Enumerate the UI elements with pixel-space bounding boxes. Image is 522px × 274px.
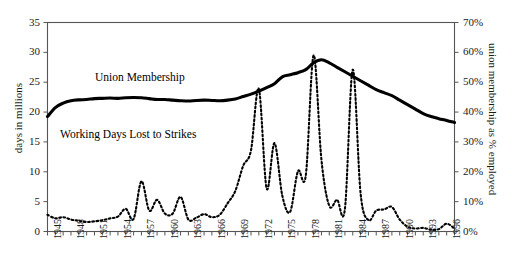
y-axis-left-tick-label: 20 [14, 105, 40, 117]
y-axis-left-tick-label: 0 [14, 225, 40, 237]
y-axis-right-tick-label: 20% [463, 165, 497, 177]
x-axis-tick-label: 1963 [192, 219, 203, 239]
x-axis-tick-label: 1978 [310, 219, 321, 239]
x-axis-tick-label: 1948 [75, 219, 86, 239]
y-axis-right-tick-label: 10% [463, 195, 497, 207]
x-axis-tick-label: 1960 [169, 219, 180, 239]
x-axis-tick-label: 1969 [239, 219, 250, 239]
x-axis-tick-label: 1951 [98, 219, 109, 239]
x-axis-tick-label: 1957 [145, 219, 156, 239]
series-line-working-days-lost [48, 55, 455, 230]
y-axis-left-ticks [44, 23, 48, 232]
y-axis-left-tick-label: 10 [14, 165, 40, 177]
x-axis-tick-label: 1945 [52, 219, 63, 239]
y-axis-right-ticks [455, 23, 459, 232]
x-axis-tick-label: 1990 [404, 219, 415, 239]
y-axis-right-tick-label: 30% [463, 135, 497, 147]
chart-container: days in millions union membership as % e… [0, 0, 522, 274]
y-axis-right-tick-label: 60% [463, 45, 497, 57]
series-line-union-membership [48, 60, 455, 123]
y-axis-left-tick-label: 25 [14, 75, 40, 87]
x-axis-tick-label: 1966 [216, 219, 227, 239]
x-axis-tick-label: 1981 [333, 219, 344, 239]
plot-frame [48, 23, 455, 232]
x-axis-tick-label: 1993 [427, 219, 438, 239]
y-axis-right-tick-label: 50% [463, 75, 497, 87]
x-axis-tick-label: 1972 [263, 219, 274, 239]
x-axis-tick-label: 1984 [357, 219, 368, 239]
y-axis-right-tick-label: 0% [463, 225, 497, 237]
y-axis-left-tick-label: 15 [14, 135, 40, 147]
y-axis-left-tick-label: 5 [14, 195, 40, 207]
y-axis-right-tick-label: 40% [463, 105, 497, 117]
x-axis-tick-label: 1954 [122, 219, 133, 239]
y-axis-left-tick-label: 35 [14, 16, 40, 28]
x-axis-tick-label: 1987 [380, 219, 391, 239]
x-axis-tick-label: 1975 [286, 219, 297, 239]
x-axis-tick-label: 1996 [451, 219, 462, 239]
y-axis-right-tick-label: 70% [463, 16, 497, 28]
y-axis-left-tick-label: 30 [14, 45, 40, 57]
